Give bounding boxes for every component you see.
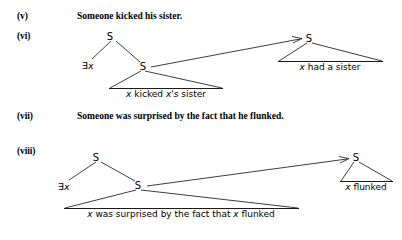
branch-root-to-quantifier-viii <box>69 162 96 180</box>
triangle-right-edge-viii <box>141 190 298 208</box>
target-triangle-right-edge-viii <box>359 162 392 181</box>
node-root-s-viii: S <box>93 152 99 163</box>
node-inner-s-viii: S <box>135 180 141 191</box>
node-quantifier-viii: ∃x <box>58 181 70 192</box>
target-triangle-left-edge-viii <box>341 162 354 181</box>
movement-arrow-line-viii <box>147 159 347 186</box>
leaf-target-clause-viii: x flunked <box>344 182 386 192</box>
figure-canvas: (v) Someone kicked his sister. (vi) S ∃x… <box>0 0 402 240</box>
node-target-s-viii: S <box>353 152 359 163</box>
tree-diagram-viii: S ∃x S x was surprised by the fact that … <box>0 0 402 240</box>
leaf-inner-clause-viii: x was surprised by the fact that x flunk… <box>86 209 275 219</box>
branch-root-to-inner-viii <box>101 162 135 181</box>
triangle-left-edge-viii <box>65 190 136 208</box>
